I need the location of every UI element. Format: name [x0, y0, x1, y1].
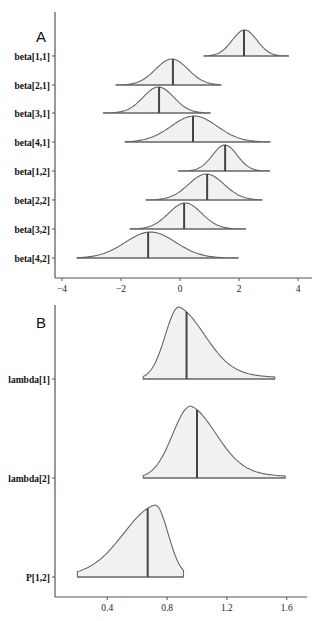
panel-a-letter: A [36, 28, 46, 45]
panel-a-ridges [77, 30, 289, 258]
y-tick-label: beta[2,1] [14, 81, 50, 91]
panel-a: A beta[1,1]beta[2,1]beta[3,1]beta[4,1]be… [14, 12, 312, 294]
density-curve [178, 145, 270, 171]
panel-a-x-ticks: −4−2024 [57, 278, 301, 294]
density-curve [130, 203, 246, 229]
y-tick-label: beta[1,2] [14, 167, 50, 177]
density-ridge [130, 203, 246, 229]
y-tick-label: beta[1,1] [14, 52, 50, 62]
y-tick-label: lambda[2] [8, 474, 50, 484]
density-ridge [143, 307, 275, 379]
figure: A beta[1,1]beta[2,1]beta[3,1]beta[4,1]be… [0, 0, 323, 621]
y-tick-label: beta[3,2] [14, 225, 50, 235]
density-ridge [125, 116, 270, 142]
density-ridge [77, 232, 238, 258]
x-tick-label: −2 [116, 284, 126, 294]
density-curve [77, 505, 183, 577]
density-curve [146, 174, 262, 200]
x-tick-label: 4 [296, 284, 301, 294]
density-ridge [204, 30, 289, 56]
density-curve [204, 30, 289, 56]
panel-b-y-labels: lambda[1]lambda[2]P[1,2] [8, 375, 55, 583]
x-tick-label: −4 [57, 284, 67, 294]
y-tick-label: P[1,2] [26, 573, 50, 583]
density-ridge [77, 505, 183, 577]
panel-b-x-ticks: 0.40.81.21.6 [101, 597, 293, 613]
x-tick-label: 0 [178, 284, 183, 294]
x-tick-label: 0.8 [161, 603, 173, 613]
density-curve [143, 406, 285, 478]
x-tick-label: 1.6 [281, 603, 293, 613]
y-tick-label: beta[3,1] [14, 109, 50, 119]
panel-a-y-labels: beta[1,1]beta[2,1]beta[3,1]beta[4,1]beta… [14, 52, 55, 264]
density-curve [125, 116, 270, 142]
density-ridge [146, 174, 262, 200]
density-curve [103, 87, 210, 113]
density-ridge [178, 145, 270, 171]
panel-b: B lambda[1]lambda[2]P[1,2] 0.40.81.21.6 [8, 305, 307, 613]
density-curve [116, 59, 221, 85]
y-tick-label: lambda[1] [8, 375, 50, 385]
y-tick-label: beta[2,2] [14, 196, 50, 206]
x-tick-label: 0.4 [101, 603, 113, 613]
density-ridge [143, 406, 285, 478]
density-curve [77, 232, 238, 258]
x-tick-label: 1.2 [221, 603, 233, 613]
y-tick-label: beta[4,2] [14, 254, 50, 264]
density-ridge [103, 87, 210, 113]
panel-b-ridges [77, 307, 285, 577]
panel-b-letter: B [36, 314, 46, 331]
x-tick-label: 2 [237, 284, 242, 294]
density-ridge [116, 59, 221, 85]
density-curve [143, 307, 275, 379]
y-tick-label: beta[4,1] [14, 138, 50, 148]
